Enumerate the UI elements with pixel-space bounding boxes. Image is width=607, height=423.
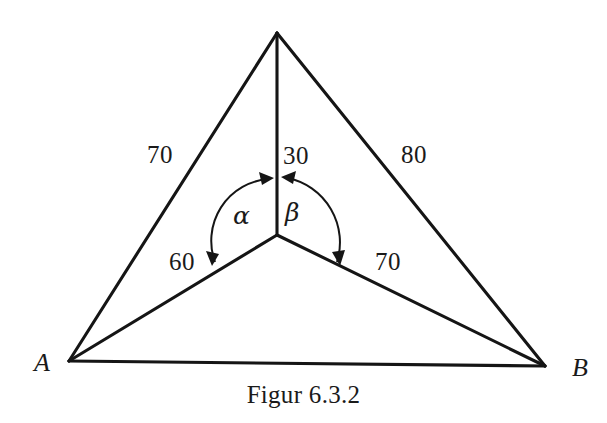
segment-a-b [69,361,545,366]
segment-apex-b [277,33,545,366]
alpha-arrowhead-lower [206,251,219,266]
segment-c-b [277,235,545,366]
edge-label-right-upper: 80 [401,142,427,167]
beta-arrowhead-upper [281,171,296,184]
figure-caption: Figur 6.3.2 [0,381,607,409]
edge-label-top-middle: 30 [283,143,309,168]
segment-a-apex [69,33,277,361]
figure-container: 70 30 80 60 70 A B α β Figur 6.3.2 [0,0,607,423]
angle-label-beta: β [285,200,299,225]
vertex-label-a: A [34,350,50,376]
angle-label-alpha: α [233,203,250,228]
alpha-arrowhead-upper [259,172,274,185]
geometry-diagram [0,0,607,423]
edge-label-left-upper: 70 [147,142,173,167]
vertex-label-b: B [572,355,588,381]
edge-label-left-lower: 60 [169,249,195,274]
edge-label-right-lower: 70 [375,249,401,274]
